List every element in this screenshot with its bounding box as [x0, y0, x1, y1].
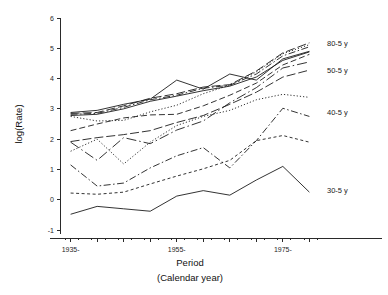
y-tick-label: 1 — [50, 166, 54, 173]
y-tick-label: 6 — [50, 15, 54, 22]
series-line-60-5-y — [71, 45, 310, 121]
x-axis-subtitle: (Calendar year) — [157, 272, 223, 283]
y-tick-label: 5 — [50, 45, 54, 52]
line-chart: -10123456 log(Rate) 1935-1955-1975- Peri… — [0, 0, 388, 295]
series-line-65-5-y — [71, 52, 310, 116]
series-line-70-5-y — [71, 47, 310, 115]
series-line-30-5-y — [71, 166, 310, 214]
x-tick-label: 1955- — [168, 246, 187, 253]
series-label-30-5-y: 30-5 y — [327, 186, 348, 195]
series-line-80-5-y — [71, 51, 310, 112]
series-line-75-5-y — [71, 43, 310, 114]
series-line-45-5-y — [71, 62, 310, 160]
y-tick-label: 0 — [50, 196, 54, 203]
series-label-40-5-y: 40-5 y — [327, 108, 348, 117]
series-line-50-5-y — [71, 70, 310, 141]
x-tick-label: 1975- — [274, 246, 293, 253]
y-axis-title: log(Rate) — [13, 104, 24, 143]
y-axis-group: -10123456 log(Rate) — [13, 15, 60, 234]
y-tick-label: 2 — [50, 136, 54, 143]
y-axis-tick-labels: -10123456 — [48, 15, 54, 234]
x-axis-tick-labels: 1935-1955-1975- — [62, 246, 293, 253]
x-tick-label: 1935- — [62, 246, 81, 253]
series-line-40-5-y — [71, 108, 310, 186]
y-tick-label: 4 — [50, 75, 54, 82]
series-lines-group — [71, 43, 310, 214]
x-axis-ticks — [65, 238, 317, 242]
y-tick-label: 3 — [50, 105, 54, 112]
series-labels-group: 80-5 y50-5 y40-5 y30-5 y — [327, 39, 348, 194]
series-label-80-5-y: 80-5 y — [327, 39, 348, 48]
x-axis-title: Period — [176, 257, 203, 268]
y-tick-label: -1 — [48, 227, 54, 234]
series-line-42-5-y — [71, 94, 310, 164]
series-label-50-5-y: 50-5 y — [327, 66, 348, 75]
x-axis-group: 1935-1955-1975- Period (Calendar year) — [50, 238, 382, 283]
figure-container: -10123456 log(Rate) 1935-1955-1975- Peri… — [0, 0, 388, 295]
